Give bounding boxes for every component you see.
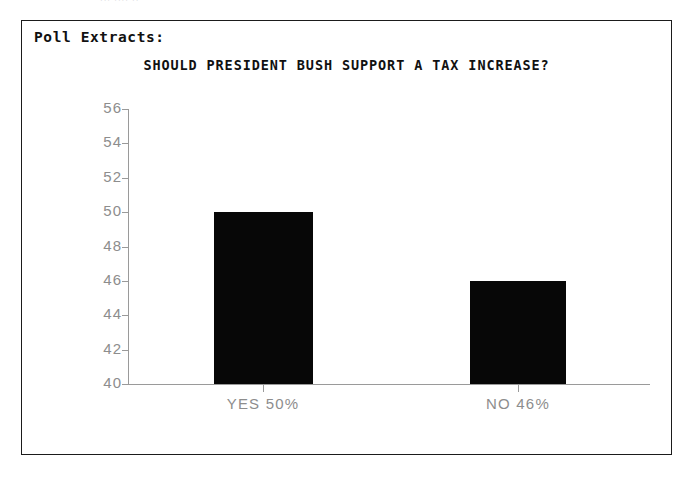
scan-edge-artifact: ··· ···· ·· [100, 0, 139, 5]
x-tick-mark-no [518, 385, 519, 392]
y-tick-mark [122, 350, 129, 351]
x-axis-line [128, 384, 650, 385]
y-tick-label: 50 [48, 202, 122, 219]
y-tick-mark [122, 212, 129, 213]
y-axis-tick-40: 40 [22, 384, 122, 385]
y-tick-label: 52 [48, 168, 122, 185]
y-axis-tick-44: 44 [22, 315, 122, 316]
y-tick-mark [122, 247, 129, 248]
y-tick-label: 54 [48, 133, 122, 150]
plot-area: 56 54 52 50 48 46 44 42 [22, 21, 673, 456]
y-tick-mark [122, 315, 129, 316]
y-axis-tick-48: 48 [22, 247, 122, 248]
y-tick-mark [122, 109, 129, 110]
y-tick-label: 40 [48, 374, 122, 391]
y-tick-label: 56 [48, 99, 122, 116]
y-tick-label: 44 [48, 305, 122, 322]
y-axis-tick-46: 46 [22, 281, 122, 282]
y-tick-mark [122, 281, 129, 282]
y-tick-mark [122, 178, 129, 179]
x-tick-mark-yes [263, 385, 264, 392]
y-tick-label: 42 [48, 340, 122, 357]
y-axis-tick-50: 50 [22, 212, 122, 213]
y-tick-label: 48 [48, 237, 122, 254]
y-axis-tick-56: 56 [22, 109, 122, 110]
figure-frame: Poll Extracts: SHOULD PRESIDENT BUSH SUP… [21, 20, 672, 455]
y-tick-mark [122, 143, 129, 144]
y-tick-mark [122, 384, 129, 385]
bar-no [470, 281, 566, 384]
x-axis-label-yes: YES 50% [183, 395, 343, 412]
x-axis-label-no: NO 46% [438, 395, 598, 412]
y-axis-tick-52: 52 [22, 178, 122, 179]
bar-yes [214, 212, 313, 384]
y-axis-tick-42: 42 [22, 350, 122, 351]
y-axis-tick-54: 54 [22, 143, 122, 144]
y-tick-label: 46 [48, 271, 122, 288]
